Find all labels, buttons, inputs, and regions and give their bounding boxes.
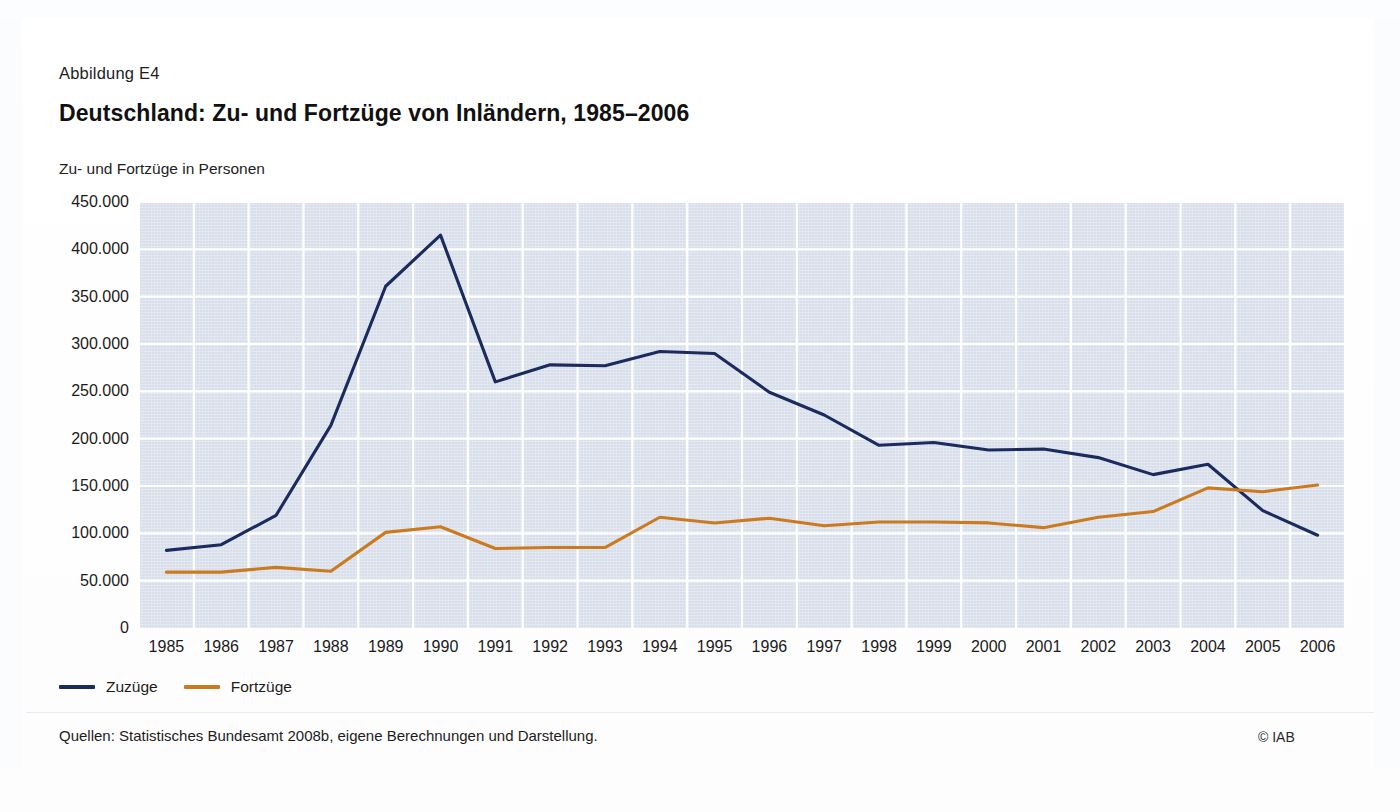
legend-label: Fortzüge (231, 678, 292, 696)
paper-edge-left (0, 0, 22, 812)
y-tick-label: 450.000 (53, 193, 129, 211)
y-tick-label: 0 (53, 619, 129, 637)
copyright-label: © IAB (1258, 729, 1295, 745)
y-tick-label: 200.000 (53, 430, 129, 448)
figure-container: Abbildung E4 Deutschland: Zu- und Fortzü… (0, 0, 1400, 812)
paper-edge-bottom (0, 768, 1400, 812)
y-tick-label: 400.000 (53, 240, 129, 258)
legend-swatch-icon (184, 685, 220, 689)
legend-label: Zuzüge (106, 678, 158, 696)
footer-divider (26, 712, 1374, 713)
series-line-zuzuege (166, 235, 1317, 550)
paper-edge-right (1374, 0, 1400, 812)
figure-label: Abbildung E4 (59, 64, 160, 83)
y-tick-label: 250.000 (53, 382, 129, 400)
paper-edge-top (0, 0, 1400, 18)
legend-item-fortzuege[interactable]: Fortzüge (184, 678, 292, 696)
y-tick-label: 350.000 (53, 288, 129, 306)
x-tick-label: 2006 (1283, 638, 1353, 656)
y-tick-label: 50.000 (53, 572, 129, 590)
y-tick-label: 100.000 (53, 524, 129, 542)
y-tick-label: 300.000 (53, 335, 129, 353)
figure-title: Deutschland: Zu- und Fortzüge von Inländ… (59, 100, 689, 127)
series-line-fortzuege (166, 485, 1317, 572)
chart-series-lines (139, 202, 1345, 628)
y-tick-label: 150.000 (53, 477, 129, 495)
legend-swatch-icon (59, 685, 95, 689)
legend-item-zuzuege[interactable]: Zuzüge (59, 678, 158, 696)
chart-legend: ZuzügeFortzüge (59, 678, 292, 696)
y-axis-unit-label: Zu- und Fortzüge in Personen (59, 160, 265, 178)
source-note: Quellen: Statistisches Bundesamt 2008b, … (59, 727, 598, 744)
